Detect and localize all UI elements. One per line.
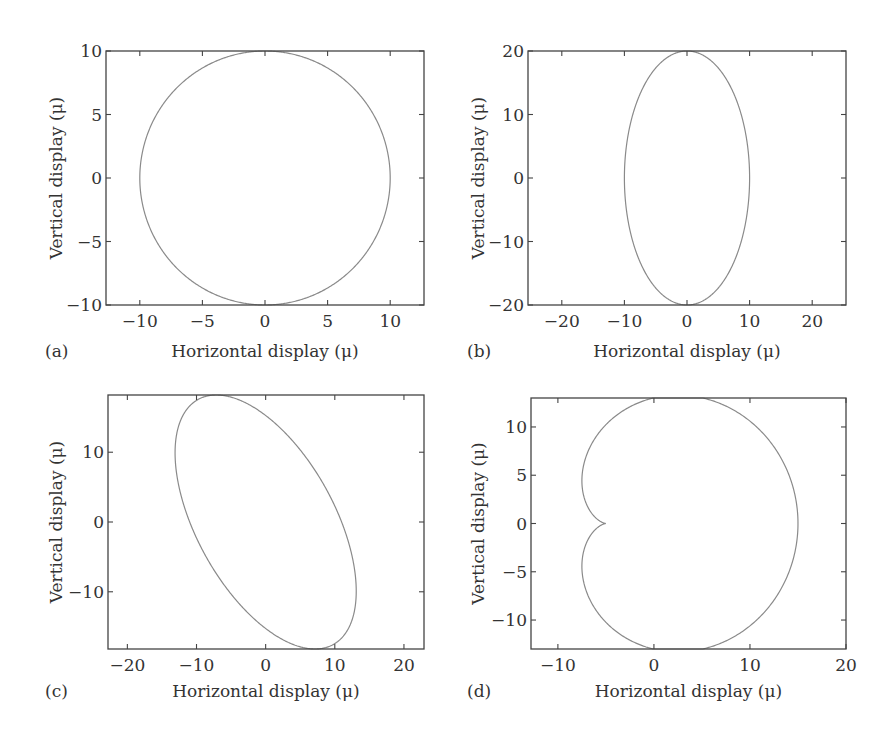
x-axis-label-a: Horizontal display (μ) [171, 341, 358, 361]
orbit-curve-a [140, 51, 390, 305]
panel-letter-b: (b) [467, 341, 491, 361]
y-axis-label-d: Vertical display (μ) [468, 442, 488, 606]
y-tick-label: 0 [91, 168, 102, 188]
panel-letter-a: (a) [45, 341, 68, 361]
x-tick-label: −10 [122, 311, 158, 331]
x-tick-label: 0 [260, 655, 271, 675]
y-tick-label: 5 [516, 465, 527, 485]
x-tick-label: −20 [544, 311, 580, 331]
y-tick-label: −10 [68, 582, 104, 602]
x-tick-label: 10 [379, 311, 401, 331]
x-tick-label: −5 [190, 311, 215, 331]
x-tick-label: 10 [739, 655, 761, 675]
x-tick-label: 20 [835, 655, 857, 675]
y-tick-label: 10 [505, 417, 527, 437]
y-tick-label: −10 [491, 610, 527, 630]
y-tick-label: −10 [488, 232, 524, 252]
y-axis-label-a: Vertical display (μ) [46, 97, 66, 261]
y-axis-label-b: Vertical display (μ) [468, 97, 488, 261]
panel-b: (b) Horizontal display (μ) Vertical disp… [467, 41, 846, 361]
x-tick-label: 0 [682, 311, 693, 331]
axes-frame-b [528, 51, 846, 305]
x-tick-label: 10 [324, 655, 346, 675]
x-axis-label-b: Horizontal display (μ) [593, 341, 780, 361]
y-tick-label: −20 [488, 295, 524, 315]
panel-d: (d) Horizontal display (μ) Vertical disp… [467, 398, 857, 701]
x-axis-label-c: Horizontal display (μ) [172, 681, 359, 701]
axes-frame-d [531, 398, 846, 649]
y-tick-label: −5 [77, 232, 102, 252]
y-tick-label: 0 [513, 168, 524, 188]
y-tick-label: 20 [502, 41, 524, 61]
x-tick-label: −10 [540, 655, 576, 675]
x-tick-label: 5 [322, 311, 333, 331]
panel-letter-c: (c) [45, 681, 68, 701]
panel-letter-d: (d) [467, 681, 491, 701]
y-axis-label-c: Vertical display (μ) [46, 441, 66, 605]
x-axis-label-d: Horizontal display (μ) [595, 681, 782, 701]
x-tick-label: −10 [606, 311, 642, 331]
y-tick-label: 10 [80, 41, 102, 61]
y-tick-label: 5 [91, 105, 102, 125]
figure: (a) Horizontal display (μ) Vertical disp… [0, 0, 888, 742]
axes-frame-a [106, 51, 424, 305]
y-tick-label: −10 [66, 295, 102, 315]
y-tick-label: 10 [502, 105, 524, 125]
x-tick-label: 20 [393, 655, 415, 675]
orbit-curve-d [582, 398, 798, 649]
x-tick-label: 20 [801, 311, 823, 331]
panel-c: (c) Horizontal display (μ) Vertical disp… [45, 395, 424, 701]
x-tick-label: 0 [260, 311, 271, 331]
panel-a: (a) Horizontal display (μ) Vertical disp… [45, 41, 424, 361]
y-tick-label: 0 [516, 514, 527, 534]
y-tick-label: −5 [502, 562, 527, 582]
orbit-curve-b [624, 51, 749, 305]
x-tick-label: 0 [649, 655, 660, 675]
y-tick-label: 0 [93, 512, 104, 532]
x-tick-label: −20 [109, 655, 145, 675]
x-tick-label: −10 [179, 655, 215, 675]
orbit-curve-c [175, 395, 356, 649]
y-tick-label: 10 [82, 442, 104, 462]
axes-frame-c [108, 395, 424, 649]
x-tick-label: 10 [739, 311, 761, 331]
